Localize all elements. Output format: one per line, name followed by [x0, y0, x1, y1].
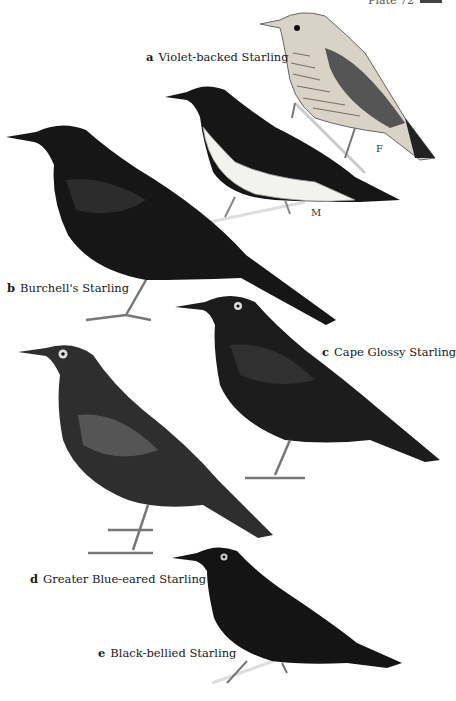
species-label-b: bBurchell's Starling	[7, 281, 129, 295]
species-label-c: cCape Glossy Starling	[322, 345, 456, 359]
header-bar	[420, 0, 442, 3]
species-label-a: aViolet-backed Starling	[146, 50, 289, 64]
black-bellied-starling-illustration	[172, 543, 402, 688]
greater-blue-eared-starling-illustration	[18, 340, 273, 560]
plate-header: Plate 72	[368, 0, 442, 7]
species-label-e: eBlack-bellied Starling	[98, 646, 236, 660]
plate-number: Plate 72	[368, 0, 414, 7]
